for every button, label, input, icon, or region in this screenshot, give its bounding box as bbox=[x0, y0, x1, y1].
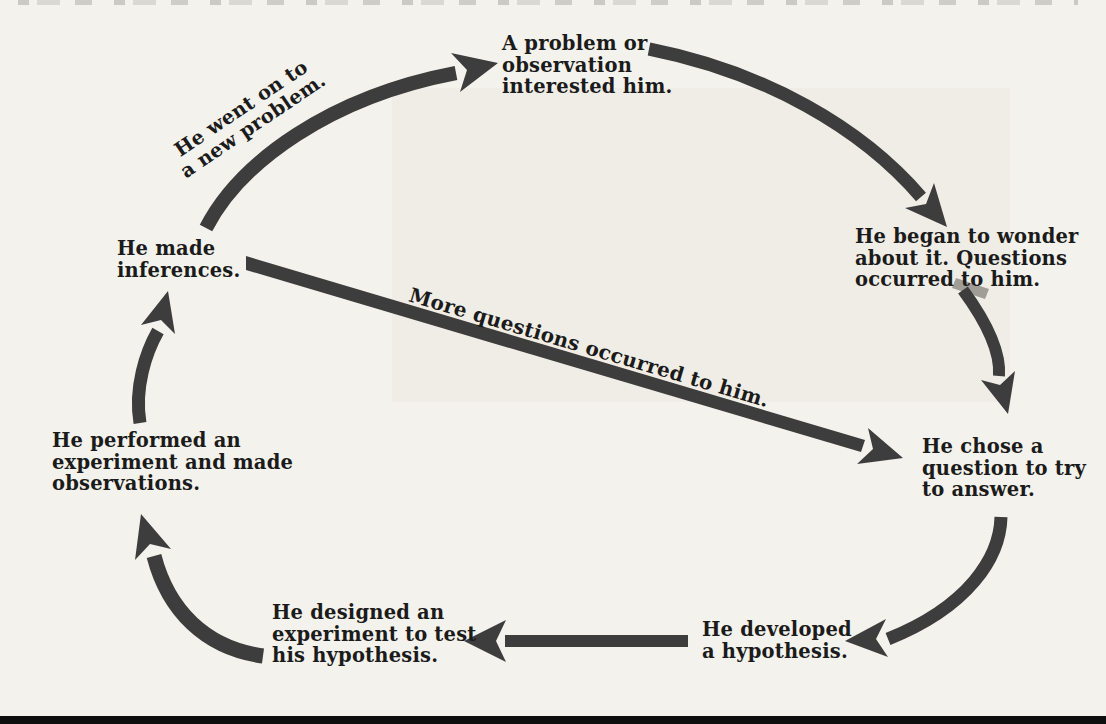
node-designed-line2: experiment to test bbox=[272, 624, 477, 646]
node-problem-line1: A problem or bbox=[502, 33, 673, 55]
arrow-designed-to-performed bbox=[135, 514, 263, 656]
node-hypothesis: He developed a hypothesis. bbox=[702, 619, 852, 662]
arrow-performed-to-inferences bbox=[138, 291, 175, 423]
node-hypothesis-line2: a hypothesis. bbox=[702, 641, 852, 663]
arrow-chose-to-hypothesis bbox=[845, 517, 1001, 657]
arrow-problem-to-wonder bbox=[649, 49, 947, 227]
arrow-inferences-to-chose-more-questions bbox=[246, 256, 903, 464]
node-performed-line2: experiment and made bbox=[52, 452, 293, 474]
node-problem-line3: interested him. bbox=[502, 76, 673, 98]
node-designed-line3: his hypothesis. bbox=[272, 645, 477, 667]
scanned-figure-page: A problem or observation interested him.… bbox=[0, 0, 1106, 724]
node-wonder-line2: about it. Questions bbox=[855, 248, 1079, 270]
node-wonder: He began to wonder about it. Questions o… bbox=[855, 226, 1079, 291]
node-performed-line1: He performed an bbox=[52, 430, 293, 452]
arrow-hypothesis-to-designed bbox=[464, 620, 688, 662]
node-chose: He chose a question to try to answer. bbox=[922, 436, 1086, 501]
node-performed: He performed an experiment and made obse… bbox=[52, 430, 293, 495]
node-wonder-line3: occurred to him. bbox=[855, 269, 1079, 291]
node-wonder-line1: He began to wonder bbox=[855, 226, 1079, 248]
node-designed-line1: He designed an bbox=[272, 602, 477, 624]
node-problem: A problem or observation interested him. bbox=[502, 33, 673, 98]
arrow-wonder-to-chose bbox=[952, 278, 1015, 414]
node-inferences-line2: inferences. bbox=[117, 260, 241, 282]
cycle-arrows-canvas bbox=[0, 0, 1106, 724]
node-chose-line3: to answer. bbox=[922, 479, 1086, 501]
node-problem-line2: observation bbox=[502, 55, 673, 77]
node-hypothesis-line1: He developed bbox=[702, 619, 852, 641]
node-inferences: He made inferences. bbox=[117, 238, 241, 281]
node-chose-line1: He chose a bbox=[922, 436, 1086, 458]
next-page-edge-bar bbox=[0, 716, 1106, 724]
node-performed-line3: observations. bbox=[52, 473, 293, 495]
node-designed: He designed an experiment to test his hy… bbox=[272, 602, 477, 667]
node-inferences-line1: He made bbox=[117, 238, 241, 260]
node-chose-line2: question to try bbox=[922, 458, 1086, 480]
